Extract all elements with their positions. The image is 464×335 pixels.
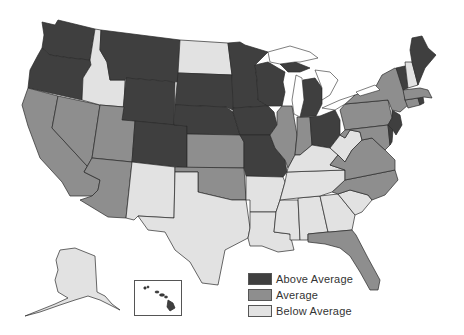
legend-label: Below Average: [276, 305, 352, 317]
legend-swatch: [248, 289, 272, 301]
state-AK: [25, 248, 120, 316]
legend-swatch: [248, 273, 272, 285]
state-SD: [175, 73, 233, 110]
map-legend: Above Average Average Below Average: [248, 271, 353, 319]
state-HI: [144, 287, 146, 289]
legend-item-above-average: Above Average: [248, 271, 353, 287]
state-IA: [233, 106, 277, 135]
us-choropleth-map: [0, 0, 464, 335]
state-CO: [132, 121, 187, 168]
hawaii-inset: [134, 280, 182, 316]
state-ND: [178, 40, 232, 75]
lake-superior: [268, 46, 318, 64]
state-WY: [122, 78, 175, 125]
state-MA: [403, 88, 432, 100]
legend-label: Average: [276, 289, 318, 301]
legend-item-below-average: Below Average: [248, 303, 353, 319]
hawaii-islands: [135, 281, 181, 315]
state-KS: [187, 134, 244, 168]
legend-item-average: Average: [248, 287, 353, 303]
state-NM: [126, 162, 175, 220]
state-WA: [42, 20, 95, 60]
legend-swatch: [248, 305, 272, 317]
state-WI: [255, 62, 285, 106]
state-MT: [100, 30, 180, 82]
legend-label: Above Average: [276, 273, 353, 285]
